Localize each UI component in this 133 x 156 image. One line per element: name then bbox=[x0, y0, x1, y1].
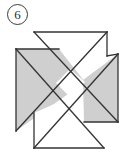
figure-panel: 6 bbox=[0, 0, 133, 156]
tangram-figure bbox=[0, 0, 133, 156]
tangram-svg bbox=[0, 0, 133, 156]
